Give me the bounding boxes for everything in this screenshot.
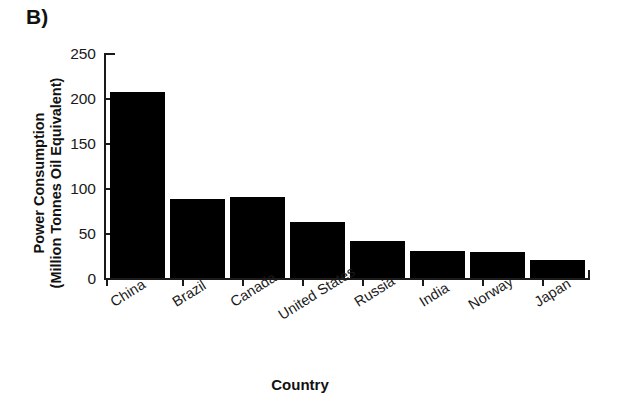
- bar-canada: [230, 197, 285, 278]
- x-tick-5: [422, 278, 424, 286]
- bar-china: [110, 92, 165, 278]
- y-tick-label-100: 100: [60, 181, 96, 196]
- x-tick-6: [482, 278, 484, 286]
- figure-panel-b: B) Power Consumption (Million Tonnes Oil…: [0, 0, 617, 419]
- y-tick-label-50: 50: [60, 226, 96, 241]
- y-tick-label-0: 0: [60, 271, 96, 286]
- x-category-label-brazil: Brazil: [170, 278, 209, 310]
- panel-label: B): [26, 6, 48, 27]
- x-tick-3: [302, 278, 304, 286]
- y-tick-label-150: 150: [60, 136, 96, 151]
- x-tick-0: [106, 278, 108, 286]
- bar-russia: [350, 241, 405, 278]
- y-axis-title-line1: Power Consumption: [31, 63, 48, 303]
- x-axis-right-endcap: [588, 270, 590, 278]
- y-axis-line: [104, 53, 106, 278]
- bar-brazil: [170, 199, 225, 278]
- x-tick-7: [542, 278, 544, 286]
- bar-india: [410, 251, 465, 278]
- y-tick-250: [106, 53, 115, 55]
- y-tick-label-200: 200: [60, 91, 96, 106]
- x-axis-title: Country: [0, 376, 600, 393]
- x-tick-1: [182, 278, 184, 286]
- x-category-label-china: China: [108, 277, 148, 310]
- bar-norway: [470, 252, 525, 278]
- y-tick-label-250: 250: [60, 46, 96, 61]
- bar-japan: [530, 260, 585, 278]
- x-category-label-japan: Japan: [532, 276, 573, 310]
- x-tick-4: [362, 278, 364, 286]
- plot-area: [104, 53, 590, 278]
